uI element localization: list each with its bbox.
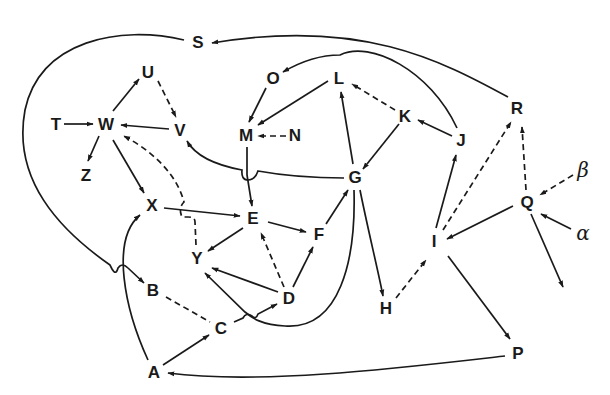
node-N: N: [289, 126, 301, 145]
edge-G-Y: [205, 190, 354, 326]
edge-K-L: [352, 84, 395, 110]
node-P: P: [512, 344, 523, 363]
edge-Q-offpage: [531, 214, 563, 287]
node-S: S: [192, 33, 203, 52]
node-Z: Z: [81, 166, 91, 185]
edge-W-X: [113, 140, 144, 193]
edge-I-P: [448, 256, 510, 339]
edge-G-V: [187, 141, 344, 180]
node-W: W: [98, 115, 115, 134]
edge-D-F: [293, 247, 313, 287]
edge-G-L: [341, 92, 353, 164]
edge-J-K: [418, 120, 452, 136]
edge-Q-I: [447, 206, 513, 239]
node-U: U: [142, 63, 154, 82]
node-R: R: [511, 99, 523, 118]
edge-V-W: [121, 125, 169, 129]
edge-Q-R: [522, 127, 526, 190]
node-F: F: [314, 225, 324, 244]
node-G: G: [348, 168, 361, 187]
node-J: J: [456, 131, 465, 150]
edge-F-G: [326, 190, 348, 224]
edge-B-C: [166, 297, 210, 322]
edge-S-B: [23, 35, 184, 283]
node-Q: Q: [520, 193, 533, 212]
edge-beta-Q: [540, 175, 573, 195]
edge-E-Y: [208, 228, 243, 251]
node-K: K: [399, 107, 412, 126]
edge-A-C: [163, 335, 209, 365]
directed-graph: S U O L T W V M N K J R Z G X E F Y Q β …: [0, 0, 610, 395]
node-C: C: [215, 319, 227, 338]
node-L: L: [334, 69, 344, 88]
node-M: M: [239, 126, 253, 145]
edge-I-R: [443, 122, 511, 230]
edge-E-F: [268, 222, 306, 232]
edge-P-A: [168, 356, 505, 377]
node-E: E: [247, 209, 258, 228]
node-Y: Y: [191, 249, 203, 268]
node-V: V: [174, 121, 186, 140]
edge-Y-W: [124, 136, 196, 245]
edge-M-E: [247, 147, 252, 206]
edge-K-G: [363, 124, 399, 169]
edge-G-H: [360, 190, 383, 296]
node-X: X: [146, 196, 158, 215]
edge-A-X: [123, 215, 148, 360]
edge-D-E: [261, 233, 284, 287]
node-I: I: [432, 232, 437, 251]
edge-W-U: [113, 79, 139, 111]
edge-W-Z: [88, 136, 99, 161]
edge-R-S: [212, 35, 508, 97]
edge-alpha-Q: [541, 214, 571, 229]
node-beta: β: [576, 158, 589, 182]
node-alpha: α: [576, 221, 590, 245]
node-B: B: [147, 281, 159, 300]
node-A: A: [148, 363, 160, 382]
node-T: T: [51, 115, 62, 134]
node-H: H: [380, 299, 392, 318]
edge-I-J: [436, 155, 456, 228]
edge-X-E: [164, 208, 240, 216]
edges: [23, 35, 573, 377]
node-O: O: [266, 69, 279, 88]
node-D: D: [283, 289, 295, 308]
edge-J-O: [283, 51, 457, 128]
edge-U-V: [158, 81, 176, 117]
edge-H-I: [396, 260, 426, 298]
edge-O-M: [249, 88, 266, 122]
